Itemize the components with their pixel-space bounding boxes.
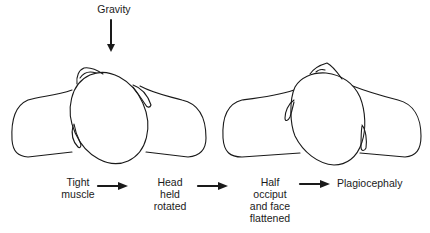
flow-step-tight-muscle: Tight muscle (53, 176, 103, 200)
left-head (56, 60, 162, 176)
gravity-arrow (107, 20, 115, 52)
plagiocephaly-diagram: Gravity Tight muscle Head held rotated H… (0, 0, 430, 233)
gravity-label: Gravity (89, 3, 139, 15)
right-head (291, 73, 365, 165)
flow-step-head-rotated: Head held rotated (145, 176, 195, 212)
left-infant-illustration (12, 60, 206, 176)
flow-arrow-3 (300, 180, 330, 188)
flow-step-flattened: Half occiput and face flattened (242, 176, 298, 224)
flow-step-plagiocephaly: Plagiocephaly (337, 177, 421, 189)
right-infant-illustration (223, 63, 421, 165)
flow-arrow-2 (198, 182, 228, 190)
